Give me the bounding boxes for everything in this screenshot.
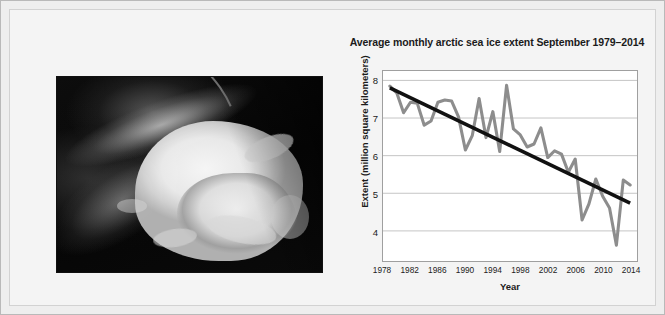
photo-terminator-shadow (222, 76, 323, 273)
figure-inner-panel: Average monthly arctic sea ice extent Se… (9, 9, 656, 306)
y-tick-label: 4 (373, 226, 378, 237)
x-tick-label: 1998 (511, 265, 529, 275)
data-series-line (390, 85, 630, 245)
figure-outer-frame: Average monthly arctic sea ice extent Se… (0, 0, 665, 315)
x-tick-label: 2002 (539, 265, 557, 275)
x-tick-label: 1982 (400, 265, 418, 275)
photo-ice-fragment (117, 199, 147, 213)
sea-ice-extent-chart: Average monthly arctic sea ice extent Se… (340, 30, 650, 302)
y-tick-label: 7 (373, 112, 378, 123)
x-axis-title: Year (382, 281, 638, 292)
x-tick-label: 1978 (373, 265, 391, 275)
x-tick-label: 2006 (566, 265, 584, 275)
x-tick-label: 1986 (428, 265, 446, 275)
y-tick-label: 5 (373, 188, 378, 199)
chart-title: Average monthly arctic sea ice extent Se… (346, 36, 648, 48)
arctic-sea-ice-satellite-photo (56, 76, 323, 273)
x-tick-label: 1994 (483, 265, 501, 275)
x-axis-tick-labels: 1978198219861990199419982002200620102014 (382, 265, 638, 279)
plot-svg (383, 71, 637, 261)
y-axis-tick-labels: 87654 (356, 70, 378, 262)
x-tick-label: 1990 (456, 265, 474, 275)
x-tick-label: 2010 (594, 265, 612, 275)
x-tick-label: 2014 (622, 265, 640, 275)
y-tick-label: 6 (373, 150, 378, 161)
plot-area (382, 70, 638, 262)
y-tick-label: 8 (373, 74, 378, 85)
